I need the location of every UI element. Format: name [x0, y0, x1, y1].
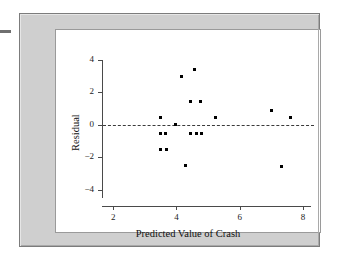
y-axis-title: Residual [70, 114, 81, 151]
scatter-point [159, 148, 162, 151]
x-axis-tick [303, 206, 304, 210]
scatter-point [280, 165, 283, 168]
scatter-point [270, 109, 273, 112]
scatter-point [199, 100, 202, 103]
x-axis-tick [113, 206, 114, 210]
scatter-point [159, 116, 162, 119]
scatter-point [200, 132, 203, 135]
y-axis-tick [98, 157, 102, 158]
scatter-point [189, 100, 192, 103]
scatter-point [159, 132, 162, 135]
y-axis-tick [98, 92, 102, 93]
y-axis-tick-label: 4 [76, 54, 94, 64]
x-axis-title: Predicted Value of Crash [56, 228, 320, 239]
page-edge-artifact [0, 30, 11, 33]
y-axis-tick-label: −2 [76, 151, 94, 161]
y-axis-tick-label: −4 [76, 184, 94, 194]
scatter-point [165, 148, 168, 151]
scatter-plot-area: 420−2−42468 [56, 30, 320, 232]
x-axis-tick-label: 2 [103, 212, 123, 222]
x-axis-line [102, 206, 311, 207]
scatter-point [180, 75, 183, 78]
scatter-point [289, 116, 292, 119]
y-axis-tick [98, 190, 102, 191]
scatter-point [189, 132, 192, 135]
y-axis-line [102, 60, 103, 198]
figure-frame: 420−2−42468 Predicted Value of Crash Res… [19, 13, 320, 247]
plot-panel: 420−2−42468 Predicted Value of Crash Res… [55, 29, 321, 233]
zero-residual-line [103, 125, 314, 126]
x-axis-tick-label: 6 [230, 212, 250, 222]
x-axis-tick [240, 206, 241, 210]
y-axis-tick [98, 125, 102, 126]
y-axis-tick [98, 60, 102, 61]
scatter-point [174, 123, 177, 126]
x-axis-tick [176, 206, 177, 210]
scatter-point [214, 116, 217, 119]
scatter-point [184, 164, 187, 167]
x-axis-tick-label: 8 [293, 212, 313, 222]
y-axis-tick-label: 2 [76, 86, 94, 96]
scatter-point [195, 132, 198, 135]
x-axis-tick-label: 4 [166, 212, 186, 222]
figure-page: 420−2−42468 Predicted Value of Crash Res… [0, 0, 339, 262]
scatter-point [164, 132, 167, 135]
scatter-point [193, 68, 196, 71]
